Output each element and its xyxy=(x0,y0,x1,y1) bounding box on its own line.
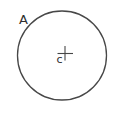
center-c-label: c xyxy=(57,53,63,66)
point-a-label: A xyxy=(19,12,28,27)
figure-canvas: A c xyxy=(0,0,120,115)
geometry-figure: A c xyxy=(0,0,120,115)
